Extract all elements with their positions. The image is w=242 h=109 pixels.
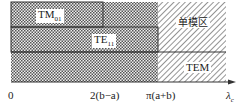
tem-label: TEM [184, 62, 211, 73]
axis-label-lambda-c: λc [226, 90, 234, 104]
axis-arrow-icon [228, 80, 236, 85]
tick-pi-a-b: π(a+b) [146, 90, 175, 101]
tick-zero: 0 [8, 90, 14, 101]
multimode-region [11, 2, 158, 82]
tick-2b-a: 2(b−a) [90, 90, 119, 101]
te11-label: TE11 [92, 34, 116, 48]
single-mode-label: 单模区 [176, 18, 210, 28]
tm01-label: TM01 [36, 9, 64, 23]
